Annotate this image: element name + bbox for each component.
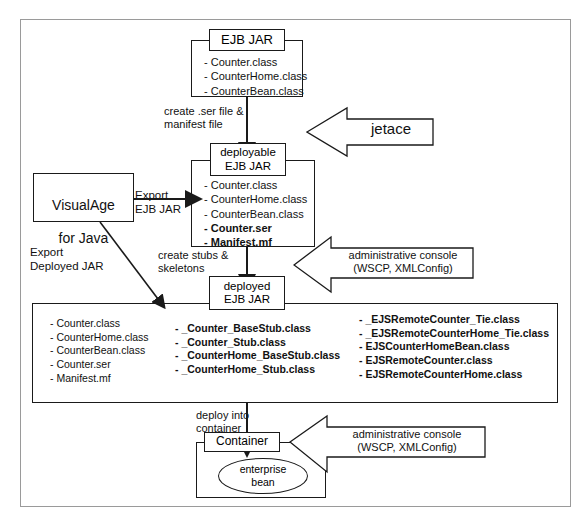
visualage-line1: VisualAge [33,197,134,214]
diagram-canvas: EJB JAR - Counter.class - CounterHome.cl… [0,0,587,524]
admin-console-callout-1: administrative console (WSCP, XMLConfig) [293,232,493,296]
deployed-tab-line2: EJB JAR [224,293,270,306]
deployed-tab-line1: deployed [224,280,271,293]
admin-console-1-label: administrative console (WSCP, XMLConfig) [333,249,473,275]
deployed-item: - Manifest.mf [50,372,149,386]
visualage-line2: for Java [33,230,134,247]
deployable-item: - Counter.class [204,178,307,192]
deployed-ejb-jar-tab: deployed EJB JAR [209,276,285,310]
deployed-item-bold: - _EJSRemoteCounter_Tie.class [359,313,549,327]
deployable-ejb-jar-tab: deployable EJB JAR [210,143,286,176]
ejb-jar-item: - Counter.class [204,55,307,69]
deployable-item-bold: - Counter.ser [204,221,272,235]
deployed-item: - Counter.ser [50,358,149,372]
deployed-item-bold: - EJSRemoteCounterHome.class [359,368,549,382]
deployed-item: - Counter.class [50,317,149,331]
deployable-tab-line2: EJB JAR [225,160,271,173]
container-tab-label: Container [216,435,268,449]
deployable-tab-line1: deployable [220,146,276,159]
label-export-deployed-jar: Export Deployed JAR [30,246,104,273]
label-create-ser-file: create .ser file & manifest file [164,105,243,131]
deployed-column-2: - _Counter_BaseStub.class - _Counter_Stu… [175,322,340,377]
enterprise-bean-line2: bean [251,476,274,489]
label-create-stubs: create stubs & skeletons [158,249,228,275]
deployed-item-bold: - EJSRemoteCounter.class [359,354,549,368]
enterprise-bean-line1: enterprise [240,463,287,476]
container-tab: Container [204,432,280,452]
ejb-jar-tab: EJB JAR [209,29,285,51]
deployed-item: - CounterHome.class [50,331,149,345]
deployed-column-3: - _EJSRemoteCounter_Tie.class - _EJSRemo… [359,313,549,381]
deployable-items-plain: - Counter.class - CounterHome.class - Co… [204,178,307,221]
jetace-callout-label: jetace [350,120,432,138]
admin-console-callout-2: administrative console (WSCP, XMLConfig) [289,412,504,478]
deployed-column-1: - Counter.class - CounterHome.class - Co… [50,317,149,385]
deployed-item-bold: - _CounterHome_BaseStub.class [175,349,340,363]
deployable-items-bold: - Counter.ser - Manifest.mf [204,221,272,250]
ejb-jar-items: - Counter.class - CounterHome.class - Co… [204,55,307,98]
deployed-item: - CounterBean.class [50,344,149,358]
ejb-jar-item: - CounterBean.class [204,84,307,98]
deployable-item-bold: - Manifest.mf [204,235,272,249]
deployed-item-bold: - _Counter_BaseStub.class [175,322,340,336]
deployable-item: - CounterBean.class [204,207,307,221]
jetace-callout: jetace [306,104,452,160]
deployed-item-bold: - EJSCounterHomeBean.class [359,340,549,354]
deployed-item-bold: - _Counter_Stub.class [175,336,340,350]
deployed-item-bold: - _EJSRemoteCounterHome_Tie.class [359,327,549,341]
admin-console-2-label: administrative console (WSCP, XMLConfig) [329,428,485,454]
deployed-item-bold: - _CounterHome_Stub.class [175,363,340,377]
label-export-ejb-jar: Export EJB JAR [135,189,181,216]
enterprise-bean-ellipse: enterprise bean [218,458,308,494]
ejb-jar-item: - CounterHome.class [204,69,307,83]
deployable-item: - CounterHome.class [204,192,307,206]
ejb-jar-tab-label: EJB JAR [221,33,273,48]
